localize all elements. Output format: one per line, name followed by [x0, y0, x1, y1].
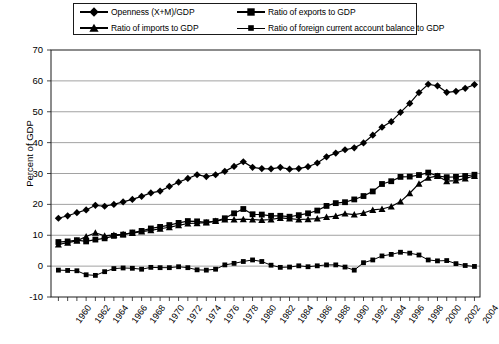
legend-label-imports: Ratio of imports to GDP — [111, 23, 198, 33]
y-tick-label: 20 — [17, 198, 43, 209]
data-series-layer — [55, 81, 478, 278]
legend-item-openness[interactable]: Openness (X+M)/GDP — [80, 4, 194, 20]
legend-row-2: Ratio of imports to GDP Ratio of foreign… — [74, 20, 416, 36]
data-series — [55, 81, 478, 222]
y-tick-label: 40 — [17, 137, 43, 148]
data-series — [55, 172, 478, 247]
chart-canvas — [0, 0, 499, 344]
y-tick-label: 60 — [17, 75, 43, 86]
chart-legend: Openness (X+M)/GDP Ratio of exports to G… — [73, 3, 417, 35]
small-square-marker-icon — [237, 22, 265, 34]
data-series — [56, 250, 477, 278]
legend-label-exports: Ratio of exports to GDP — [268, 7, 355, 17]
legend-row-1: Openness (X+M)/GDP Ratio of exports to G… — [74, 4, 416, 20]
legend-item-current-account[interactable]: Ratio of foreign current account balance… — [237, 20, 444, 36]
data-series — [55, 170, 477, 245]
y-tick-label: 10 — [17, 229, 43, 240]
y-tick-label: 30 — [17, 168, 43, 179]
legend-label-openness: Openness (X+M)/GDP — [111, 7, 194, 17]
y-tick-label: 70 — [17, 44, 43, 55]
legend-label-current-account: Ratio of foreign current account balance… — [268, 23, 444, 33]
y-tick-label: 0 — [17, 260, 43, 271]
legend-item-exports[interactable]: Ratio of exports to GDP — [237, 4, 355, 20]
triangle-marker-icon — [80, 22, 108, 34]
legend-item-imports[interactable]: Ratio of imports to GDP — [80, 20, 198, 36]
square-marker-icon — [237, 6, 265, 18]
y-tick-label: 50 — [17, 106, 43, 117]
y-tick-label: -10 — [17, 291, 43, 302]
diamond-marker-icon — [80, 6, 108, 18]
